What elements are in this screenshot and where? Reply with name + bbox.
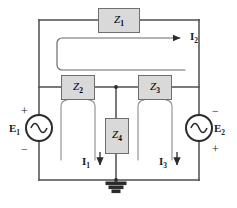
impedance-z2: Z2: [61, 75, 95, 100]
impedance-z1-label: Z1: [114, 13, 124, 28]
e2-positive-sign: +: [212, 143, 219, 155]
e2-negative-sign: −: [212, 105, 219, 117]
voltage-source-e2-label: E2: [214, 123, 225, 137]
impedance-z1: Z1: [98, 8, 140, 33]
junction-center-top: [114, 85, 118, 89]
impedance-z4: Z4: [105, 118, 129, 154]
mesh-loop-i3-left: [138, 100, 144, 160]
impedance-z2-label: Z2: [73, 80, 83, 95]
current-label-i1: I1: [82, 156, 90, 170]
junction-center-bottom: [114, 178, 118, 182]
impedance-z4-label: Z4: [112, 128, 122, 143]
e1-negative-sign: −: [21, 143, 28, 155]
current-label-i3: I3: [159, 156, 167, 170]
ground-symbol: [106, 182, 126, 193]
impedance-z3: Z3: [138, 75, 172, 100]
voltage-source-e1-label: E1: [9, 123, 20, 137]
mesh-loop-i1-right: [89, 100, 95, 160]
e1-positive-sign: +: [21, 105, 28, 117]
mesh-loop-i3-right: [166, 100, 172, 160]
voltage-source-e2-graphic: [186, 115, 212, 141]
mesh-loop-i2-path: [57, 38, 185, 70]
current-label-i2: I2: [190, 31, 198, 45]
voltage-source-e1-graphic: [26, 115, 52, 141]
impedance-z3-label: Z3: [150, 80, 160, 95]
circuit-diagram-canvas: Z1 Z2 Z3 Z4 E1 + − E2 − + I1 I2 I3: [0, 0, 237, 208]
